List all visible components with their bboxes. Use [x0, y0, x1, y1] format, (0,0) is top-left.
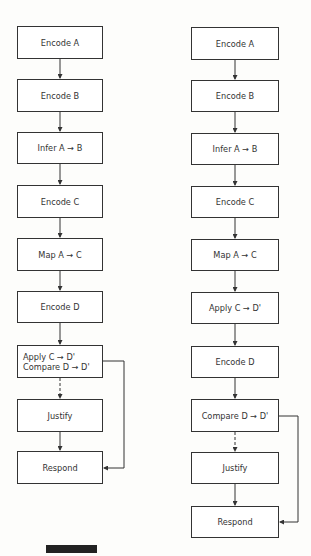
left-step-encode-a: Encode A — [17, 26, 103, 59]
step-label: Justify — [48, 411, 73, 421]
step-label: Encode C — [216, 197, 254, 207]
left-step-justify: Justify — [17, 399, 103, 432]
left-step-respond: Respond — [17, 451, 103, 484]
step-label: Justify — [223, 463, 248, 473]
step-label: Compare D → D' — [202, 411, 269, 421]
right-step-justify: Justify — [191, 452, 279, 484]
step-label: Encode B — [216, 91, 254, 101]
right-step-map: Map A → C — [191, 239, 279, 271]
step-label: Infer A → B — [38, 143, 83, 153]
step-label: Map A → C — [213, 250, 256, 260]
step-label: Map A → C — [38, 250, 81, 260]
step-label: Respond — [42, 463, 77, 473]
step-label: Encode C — [41, 197, 79, 207]
step-label: Infer A → B — [213, 144, 258, 154]
step-label: Encode D — [40, 302, 79, 312]
left-step-infer: Infer A → B — [17, 132, 103, 164]
step-label: Encode D — [215, 357, 254, 367]
left-step-apply-compare: Apply C → D' Compare D → D' — [17, 345, 103, 378]
left-step-encode-c: Encode C — [17, 185, 103, 218]
step-label-compare: Compare D → D' — [23, 362, 90, 372]
step-label: Encode B — [41, 91, 79, 101]
step-label: Encode A — [41, 38, 79, 48]
right-step-encode-b: Encode B — [191, 80, 279, 112]
step-label: Apply C → D' — [209, 303, 261, 313]
right-step-infer: Infer A → B — [191, 133, 279, 165]
right-step-respond: Respond — [191, 506, 279, 538]
step-label: Encode A — [216, 39, 254, 49]
left-step-encode-b: Encode B — [17, 79, 103, 112]
right-step-encode-d: Encode D — [191, 346, 279, 378]
right-step-encode-a: Encode A — [191, 27, 279, 60]
scale-bar — [46, 545, 97, 553]
step-label-apply: Apply C → D' — [23, 352, 75, 362]
left-step-encode-d: Encode D — [17, 291, 103, 323]
right-step-encode-c: Encode C — [191, 186, 279, 218]
right-step-compare: Compare D → D' — [191, 399, 279, 432]
left-step-map: Map A → C — [17, 238, 103, 271]
step-label: Respond — [217, 517, 252, 527]
right-step-apply: Apply C → D' — [191, 292, 279, 324]
